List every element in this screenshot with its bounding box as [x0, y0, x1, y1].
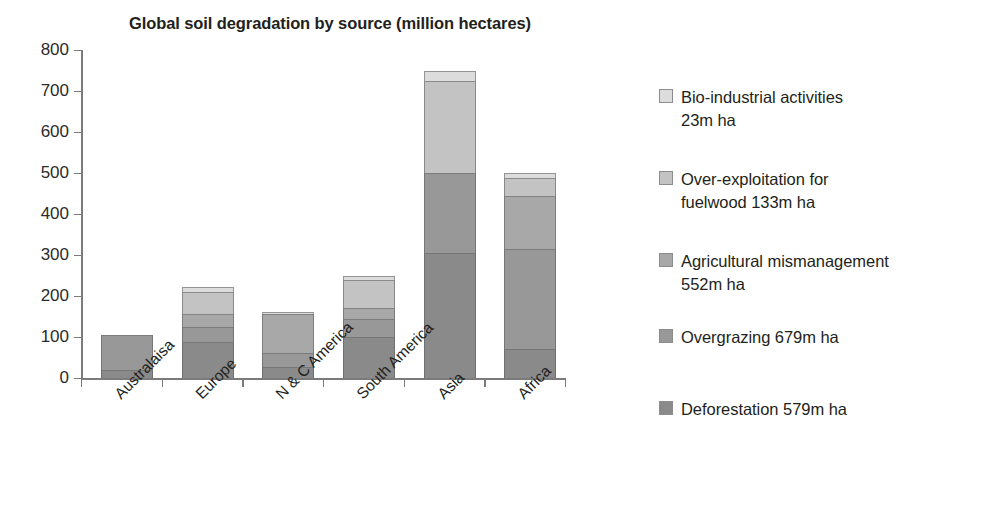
- x-axis-tick: [484, 378, 485, 387]
- bar-segment[interactable]: [424, 71, 476, 81]
- legend-label: Overgrazing 679m ha: [681, 326, 839, 349]
- legend-swatch-icon: [659, 329, 673, 343]
- bar-segment[interactable]: [262, 312, 314, 314]
- bar-segment[interactable]: [504, 173, 556, 178]
- y-axis-tick-label: 200: [17, 286, 69, 306]
- y-axis-tick: 100: [74, 337, 81, 338]
- y-axis-tick: 500: [74, 173, 81, 174]
- bar-segment[interactable]: [343, 280, 395, 308]
- legend-label: Over-exploitation for fuelwood 133m ha: [681, 168, 829, 214]
- plot-area: 0100200300400500600700800: [81, 50, 565, 378]
- x-axis-tick: [242, 378, 243, 387]
- y-axis-tick-label: 600: [17, 122, 69, 142]
- bar-segment[interactable]: [343, 308, 395, 318]
- y-axis-tick-label: 300: [17, 245, 69, 265]
- x-axis-tick: [162, 378, 163, 387]
- x-axis-tick: [81, 378, 82, 387]
- bar-segment[interactable]: [504, 196, 556, 249]
- bar-segment[interactable]: [504, 178, 556, 196]
- x-axis-tick: [565, 378, 566, 387]
- bar-segment[interactable]: [182, 292, 234, 315]
- y-axis-tick-label: 500: [17, 163, 69, 183]
- legend-swatch-icon: [659, 401, 673, 415]
- y-axis-tick: 300: [74, 255, 81, 256]
- bar-segment[interactable]: [424, 173, 476, 253]
- y-axis-tick: 600: [74, 132, 81, 133]
- y-axis-tick: 200: [74, 296, 81, 297]
- legend-label: Bio-industrial activities 23m ha: [681, 86, 843, 132]
- chart-title: Global soil degradation by source (milli…: [0, 14, 660, 33]
- legend-item[interactable]: Agricultural mismanagement 552m ha: [659, 250, 889, 296]
- y-axis-tick-label: 400: [17, 204, 69, 224]
- legend-swatch-icon: [659, 253, 673, 267]
- y-axis-tick-label: 800: [17, 40, 69, 60]
- y-axis-tick-label: 700: [17, 81, 69, 101]
- legend-item[interactable]: Deforestation 579m ha: [659, 398, 847, 421]
- bar-segment[interactable]: [424, 253, 476, 378]
- y-axis-line: [81, 50, 83, 378]
- legend-label: Deforestation 579m ha: [681, 398, 847, 421]
- bar-segment[interactable]: [182, 314, 234, 326]
- bar-segment[interactable]: [343, 276, 395, 281]
- y-axis-tick-label: 0: [17, 368, 69, 388]
- y-axis-tick: 400: [74, 214, 81, 215]
- legend-item[interactable]: Overgrazing 679m ha: [659, 326, 839, 349]
- x-axis-tick: [404, 378, 405, 387]
- bar-segment[interactable]: [262, 314, 314, 353]
- legend-item[interactable]: Over-exploitation for fuelwood 133m ha: [659, 168, 829, 214]
- x-axis-tick: [323, 378, 324, 387]
- bar-segment[interactable]: [504, 249, 556, 349]
- legend-swatch-icon: [659, 171, 673, 185]
- bar-segment[interactable]: [424, 81, 476, 173]
- bar-segment[interactable]: [182, 327, 234, 342]
- legend-swatch-icon: [659, 89, 673, 103]
- y-axis-tick-label: 100: [17, 327, 69, 347]
- y-axis-tick: 700: [74, 91, 81, 92]
- legend-item[interactable]: Bio-industrial activities 23m ha: [659, 86, 843, 132]
- y-axis-tick: 0: [74, 378, 81, 379]
- chart-container: Global soil degradation by source (milli…: [0, 0, 981, 514]
- legend-label: Agricultural mismanagement 552m ha: [681, 250, 889, 296]
- y-axis-tick: 800: [74, 50, 81, 51]
- bar-segment[interactable]: [182, 287, 234, 292]
